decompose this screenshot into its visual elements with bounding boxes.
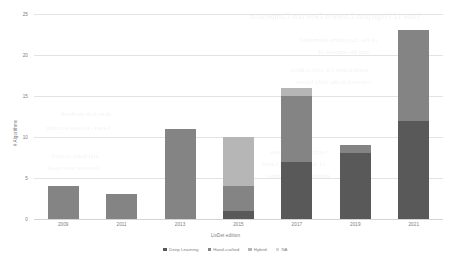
x-tick-label-2021: 2021	[385, 222, 443, 227]
bar-segment-2013-hand-crafted[interactable]	[165, 129, 196, 219]
y-tick-label-0: 0	[4, 217, 28, 222]
x-tick-label-2013: 2013	[151, 222, 209, 227]
legend-swatch-icon	[248, 248, 252, 252]
y-tick-label-25: 25	[4, 12, 28, 17]
bar-segment-2021-deep-learning[interactable]	[398, 121, 429, 219]
legend-swatch-icon	[276, 248, 280, 252]
legend-item-hand-crafted[interactable]: Hand-crafted	[208, 247, 240, 252]
bar-stack-2015[interactable]	[223, 137, 254, 219]
bar-segment-2017-deep-learning[interactable]	[281, 162, 312, 219]
plot-area	[34, 14, 443, 219]
bar-group-2015[interactable]	[209, 14, 267, 219]
bar-segment-2015-hand-crafted[interactable]	[223, 186, 254, 211]
y-axis-ticks: 0510152025	[0, 14, 30, 219]
legend-item-hybrid[interactable]: Hybrid	[248, 247, 267, 252]
bar-stack-2013[interactable]	[165, 129, 196, 219]
legend-label: NA	[281, 247, 287, 252]
bar-stack-2011[interactable]	[106, 194, 137, 219]
y-axis-title: # Algorithms	[13, 120, 18, 146]
bar-group-2017[interactable]	[268, 14, 326, 219]
legend-label: Hybrid	[254, 247, 267, 252]
bar-segment-2019-hand-crafted[interactable]	[340, 145, 371, 153]
x-tick-label-2017: 2017	[268, 222, 326, 227]
bar-segment-2009-hand-crafted[interactable]	[48, 186, 79, 219]
x-tick-label-2009: 2009	[34, 222, 92, 227]
bar-stack-2021[interactable]	[398, 30, 429, 219]
legend-label: Deep Learning	[169, 247, 199, 252]
x-axis-ticks: 2009201120132015201720192021	[34, 222, 443, 227]
x-tick-label-2019: 2019	[326, 222, 384, 227]
legend-label: Hand-crafted	[213, 247, 239, 252]
bar-segment-2017-hybrid[interactable]	[281, 88, 312, 96]
x-tick-label-2011: 2011	[92, 222, 150, 227]
bar-stack-2019[interactable]	[340, 145, 371, 219]
legend-item-na[interactable]: NA	[276, 247, 288, 252]
gridline-0	[34, 219, 443, 220]
bar-segment-2021-hand-crafted[interactable]	[398, 30, 429, 120]
bar-stack-2009[interactable]	[48, 186, 79, 219]
bar-segment-2015-deep-learning[interactable]	[223, 211, 254, 219]
bar-group-2013[interactable]	[151, 14, 209, 219]
stacked-bar-chart: 0510152025 # Algorithms 2009201120132015…	[0, 0, 451, 266]
legend-swatch-icon	[208, 248, 212, 252]
bar-segment-2011-hand-crafted[interactable]	[106, 194, 137, 219]
x-axis-title: LivDet edition	[0, 233, 451, 238]
chart-legend: Deep LearningHand-craftedHybridNA	[0, 247, 451, 252]
y-tick-label-15: 15	[4, 94, 28, 99]
bar-group-2019[interactable]	[326, 14, 384, 219]
bar-group-2009[interactable]	[34, 14, 92, 219]
legend-item-deep-learning[interactable]: Deep Learning	[163, 247, 198, 252]
bar-segment-2019-deep-learning[interactable]	[340, 153, 371, 219]
y-tick-label-5: 5	[4, 176, 28, 181]
legend-swatch-icon	[163, 248, 167, 252]
x-tick-label-2015: 2015	[209, 222, 267, 227]
bar-segment-2017-hand-crafted[interactable]	[281, 96, 312, 162]
bar-stack-2017[interactable]	[281, 88, 312, 219]
y-tick-label-20: 20	[4, 53, 28, 58]
bar-group-2011[interactable]	[92, 14, 150, 219]
bar-series-container	[34, 14, 443, 219]
bar-segment-2015-hybrid[interactable]	[223, 137, 254, 186]
bar-group-2021[interactable]	[385, 14, 443, 219]
